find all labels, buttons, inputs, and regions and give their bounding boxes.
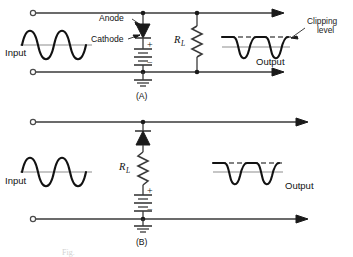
resistor-sub-b: L [125,166,130,175]
battery-plus-a: + [147,39,153,50]
output-waveform-b: Output [213,163,314,191]
junction-dot-b-top [141,120,146,125]
output-label-a: Output [256,56,285,67]
clipping-label-line2: level [317,25,334,35]
section-a: + − R L Anode [5,9,338,101]
junction-dot-a-top [141,11,146,16]
clipper-circuit-figure: + − R L Anode [0,0,353,257]
section-label-b: (B) [136,237,148,247]
resistor-label-a: R [173,34,181,45]
section-label-a: (A) [136,91,148,101]
anode-callout: Anode [99,13,141,25]
junction-dot-rl-a-bottom [195,70,200,75]
section-b: R L + − [5,118,314,247]
cathode-label: Cathode [91,34,124,44]
junction-dot-rl-a-top [195,11,200,16]
diode-battery-branch-a: + − [134,11,153,75]
cathode-callout: Cathode [91,34,140,44]
clipping-level-callout: Clipping level [291,16,338,39]
section-a-top-rail [30,9,284,17]
input-waveform-a: Input [5,31,92,60]
ground-symbol-a [134,72,152,86]
figure-caption: Fig. [62,248,75,257]
load-resistor-b: R L [118,152,148,185]
section-b-top-rail [30,118,308,126]
input-waveform-b: Input [5,158,92,187]
input-terminal-bottom-b [30,216,35,221]
battery-minus-b: − [147,204,153,215]
section-b-bottom-rail [30,215,308,223]
input-label-b: Input [5,175,26,186]
anode-label: Anode [99,13,124,23]
ground-symbol-b [134,219,152,232]
output-waveform-a: Output Clipping level [222,16,338,67]
resistor-label-b: R [118,161,126,172]
battery-plus-b: + [147,185,153,196]
output-label-b: Output [285,180,314,191]
input-terminal-bottom-a [30,69,35,74]
resistor-sub-a: L [180,39,185,48]
input-label-a: Input [5,47,26,58]
diode-triangle-b [136,131,150,145]
input-terminal-top-a [30,10,35,15]
section-a-bottom-rail [30,68,284,76]
battery-minus-a: − [147,57,153,68]
input-terminal-top-b [30,119,35,124]
load-resistor-a: R L [173,11,202,75]
diode-resistor-battery-branch-b: R L + − [118,120,153,222]
